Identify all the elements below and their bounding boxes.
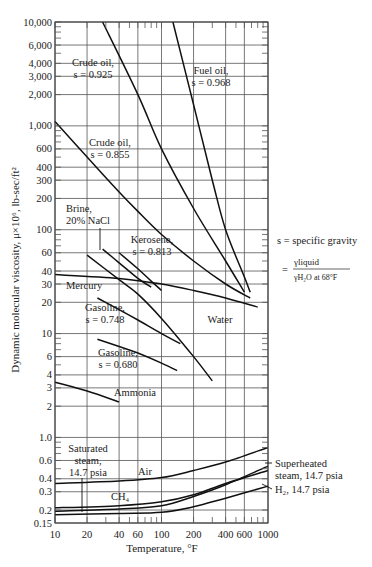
- x-tick-label: 60: [133, 529, 144, 540]
- y-tick-label: 200: [36, 193, 52, 204]
- y-tick-label: 60: [42, 247, 53, 258]
- y-tick-label: 3,000: [28, 71, 52, 82]
- curve-label: CH₄: [111, 491, 130, 502]
- y-tick-label: 1,000: [28, 120, 52, 131]
- curve-label: steam,: [74, 455, 101, 466]
- y-tick-label: 400: [36, 162, 52, 173]
- curve-label: Crude oil,: [72, 57, 114, 68]
- sg-equals: =: [282, 264, 288, 275]
- curve-labels: Crude oil,s = 0.925Fuel oil,s = 0.968Cru…: [66, 57, 343, 512]
- y-tick-label: 0.3: [39, 486, 52, 497]
- y-tick-label: 100: [36, 224, 52, 235]
- curve-label: Ammonia: [114, 387, 156, 398]
- curve-label: steam, 14.7 psia: [275, 470, 343, 481]
- x-tick-label: 400: [218, 529, 234, 540]
- curve-label: Saturated: [68, 443, 108, 454]
- y-tick-label: 6,000: [28, 40, 52, 51]
- curve-label: Mercury: [66, 280, 103, 291]
- curve-label: 20% NaCl: [66, 215, 110, 226]
- y-tick-label: 0.15: [34, 518, 52, 529]
- y-tick-label: 30: [42, 279, 53, 290]
- sg-definition: s = specific gravity: [277, 235, 358, 246]
- curve-label: Air: [138, 466, 153, 477]
- y-tick-label: 4,000: [28, 58, 52, 69]
- curve-label: s = 0.925: [74, 69, 113, 80]
- y-tick-label: 300: [36, 175, 52, 186]
- curve-label: s = 0.680: [99, 359, 138, 370]
- viscosity-chart: 10,0006,0004,0003,0002,0001,000600400300…: [0, 0, 372, 567]
- curve-label: s = 0.813: [133, 246, 172, 257]
- curve-label: Kerosene,: [131, 234, 173, 245]
- specific-gravity-annotation: s = specific gravity = γliquid γH₂O at 6…: [277, 235, 358, 282]
- y-tick-label: 4: [47, 369, 53, 380]
- x-tick-label: 1000: [258, 529, 279, 540]
- curve-label: s = 0.968: [192, 77, 231, 88]
- x-tick-label: 10: [50, 529, 61, 540]
- y-tick-label: 0.4: [39, 473, 53, 484]
- x-tick-label: 100: [154, 529, 170, 540]
- y-tick-label: 2: [47, 401, 52, 412]
- curve-fuel-oil-s-0-968: [173, 22, 250, 292]
- sg-denominator: γH₂O at 68°F: [293, 273, 338, 282]
- y-tick-label: 6: [47, 351, 52, 362]
- curve-label: Superheated: [275, 458, 328, 469]
- y-tick-label: 20: [42, 297, 53, 308]
- curve-label: s = 0.855: [91, 149, 130, 160]
- y-tick-label: 0.2: [39, 505, 52, 516]
- curve-label: Water: [208, 314, 233, 325]
- y-axis-ticks: 10,0006,0004,0003,0002,0001,000600400300…: [23, 17, 268, 529]
- x-tick-label: 600: [236, 529, 252, 540]
- x-tick-label: 40: [114, 529, 125, 540]
- y-tick-label: 600: [36, 143, 52, 154]
- sg-numerator: γliquid: [293, 257, 319, 267]
- y-tick-label: 40: [42, 266, 53, 277]
- y-tick-label: 0.6: [39, 455, 52, 466]
- y-tick-label: 10,000: [23, 17, 52, 28]
- curve-label: Gasoline,: [98, 347, 138, 358]
- y-tick-label: 2,000: [28, 89, 52, 100]
- curve-label: 14.7 psia: [69, 467, 107, 478]
- y-tick-label: 1.0: [39, 432, 52, 443]
- x-tick-label: 20: [82, 529, 93, 540]
- curve-label: Fuel oil,: [193, 65, 228, 76]
- leader-arrow: [262, 484, 272, 489]
- y-tick-label: 10: [42, 328, 53, 339]
- y-tick-label: 3: [47, 382, 52, 393]
- y-axis-title: Dynamic molecular viscosity, μ×10⁶, lb-s…: [9, 167, 21, 373]
- curve-label: H₂, 14.7 psia: [275, 484, 330, 495]
- curve-label: s = 0.748: [86, 314, 125, 325]
- curve-label: Crude oil,: [89, 137, 131, 148]
- x-tick-label: 200: [186, 529, 202, 540]
- curve-label: Brine,: [66, 203, 92, 214]
- curve-label: Gasoline,: [85, 302, 125, 313]
- x-axis-title: Temperature, °F: [126, 542, 197, 554]
